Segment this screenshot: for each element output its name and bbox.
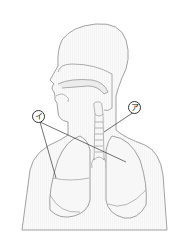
larynx bbox=[94, 102, 103, 116]
diagram-svg bbox=[0, 0, 183, 241]
label-a: ア bbox=[128, 101, 141, 114]
label-i: イ bbox=[32, 110, 45, 123]
respiratory-diagram: イ ア bbox=[0, 0, 183, 241]
